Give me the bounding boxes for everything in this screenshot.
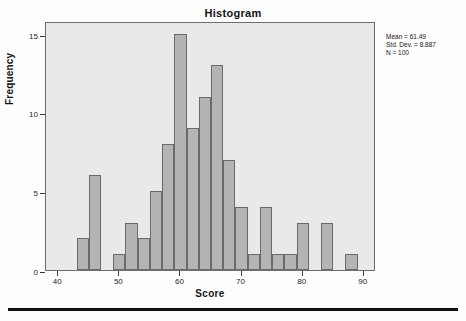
footer-divider: [8, 308, 458, 311]
histogram-bar: [345, 254, 357, 270]
histogram-bar: [113, 254, 125, 270]
plot-frame: [45, 22, 375, 271]
chart-title: Histogram: [0, 7, 466, 19]
x-axis-tick-label: 40: [53, 277, 62, 286]
histogram-bar: [284, 254, 296, 270]
stat-std-dev: Std. Dev. = 8.887: [386, 41, 436, 49]
histogram-bar: [89, 175, 101, 270]
statistics-annotation: Mean = 61.49 Std. Dev. = 8.887 N = 100: [386, 33, 436, 56]
histogram-bar: [199, 97, 211, 270]
x-axis-tick-label: 60: [175, 277, 184, 286]
x-axis-tick: [57, 271, 58, 276]
y-axis: 051015: [0, 22, 45, 272]
histogram-bar: [162, 144, 174, 270]
y-axis-tick-label: 15: [29, 31, 38, 40]
histogram-bar: [150, 191, 162, 270]
y-axis-tick-label: 0: [34, 268, 38, 277]
x-axis-tick-label: 90: [358, 277, 367, 286]
histogram-figure: Histogram Frequency 051015 405060708090 …: [0, 0, 466, 321]
plot-area: [46, 23, 374, 270]
histogram-bar: [223, 160, 235, 270]
x-axis-tick-label: 80: [297, 277, 306, 286]
histogram-bar: [260, 207, 272, 270]
x-axis-tick: [179, 271, 180, 276]
histogram-bar: [321, 223, 333, 270]
x-axis-tick: [302, 271, 303, 276]
histogram-bar: [174, 34, 186, 270]
histogram-bar: [187, 128, 199, 270]
histogram-bar: [211, 65, 223, 270]
stat-n: N = 100: [386, 49, 436, 57]
y-axis-tick-label: 5: [34, 189, 38, 198]
x-axis-tick-label: 70: [236, 277, 245, 286]
histogram-bar: [138, 238, 150, 270]
histogram-bar: [235, 207, 247, 270]
histogram-bar: [248, 254, 260, 270]
x-axis-tick: [363, 271, 364, 276]
x-axis-tick-label: 50: [114, 277, 123, 286]
x-axis-tick: [118, 271, 119, 276]
histogram-bar: [297, 223, 309, 270]
histogram-bar: [272, 254, 284, 270]
x-axis-tick: [241, 271, 242, 276]
x-axis-title: Score: [45, 288, 375, 299]
histogram-bar: [125, 223, 137, 270]
histogram-bar: [77, 238, 89, 270]
stat-mean: Mean = 61.49: [386, 33, 436, 41]
y-axis-tick-label: 10: [29, 110, 38, 119]
